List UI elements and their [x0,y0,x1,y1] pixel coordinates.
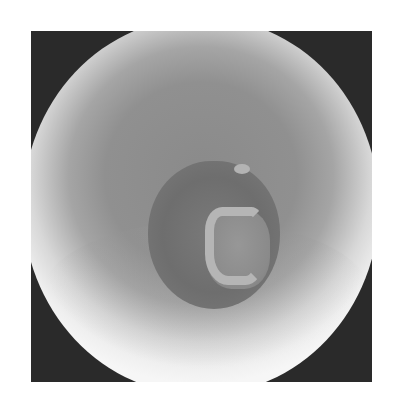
hook-shaped-structure [205,207,263,285]
small-bump [234,164,250,174]
photo-frame [31,31,372,382]
